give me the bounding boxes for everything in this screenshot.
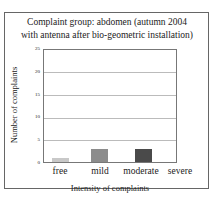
- y-tick: 15: [30, 92, 40, 98]
- gridline: [44, 140, 176, 141]
- y-tick: 5: [30, 137, 40, 143]
- y-tick: 10: [30, 114, 40, 120]
- x-tick-moderate: moderate: [121, 166, 161, 176]
- bar-mild: [91, 149, 108, 162]
- y-axis-label: Number of complaints: [9, 65, 19, 145]
- plot-area: [43, 49, 177, 163]
- title-line-2: with antenna after bio-geometric install…: [0, 29, 214, 42]
- title-line-1: Complaint group: abdomen (autumn 2004: [0, 16, 214, 29]
- x-tick-mild: mild: [80, 166, 120, 176]
- gridline: [44, 72, 176, 73]
- x-tick-free: free: [40, 166, 80, 176]
- y-tick: 0: [30, 160, 40, 166]
- x-axis-label: Intensity of complaints: [43, 183, 177, 193]
- gridline: [44, 118, 176, 119]
- chart-title: Complaint group: abdomen (autumn 2004 wi…: [0, 16, 214, 42]
- bar-moderate: [135, 149, 152, 162]
- y-tick: 20: [30, 69, 40, 75]
- bar-free: [52, 158, 69, 162]
- gridline: [44, 95, 176, 96]
- x-tick-severe: severe: [160, 166, 200, 176]
- y-tick: 25: [30, 46, 40, 52]
